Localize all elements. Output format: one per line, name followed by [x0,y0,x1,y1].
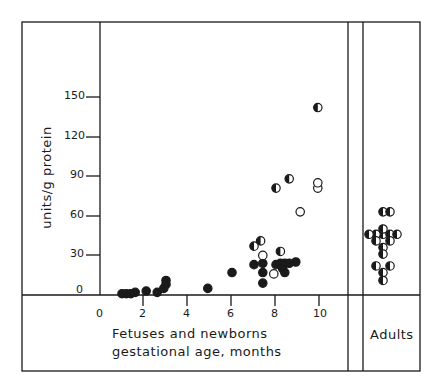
open-data-point [314,179,322,187]
open-data-point [296,208,304,216]
adults-label: Adults [370,327,414,342]
x-tick-6: 6 [227,307,234,320]
y-tick-150: 150 [64,89,85,102]
x-tick-8: 8 [271,307,278,320]
filled-data-point [204,284,212,292]
filled-data-point [131,288,139,296]
filled-data-point [259,268,267,276]
x-tick-10: 10 [313,307,327,320]
x-tick-4: 4 [183,307,190,320]
x-axis-label-line2: gestational age, months [112,344,282,359]
y-ticks [86,97,100,255]
filled-data-point [228,268,236,276]
x-axis-label-line1: Fetuses and newborns [112,326,268,341]
y-axis-label: units/g protein [39,108,54,248]
filled-data-point [259,259,267,267]
chart-frame [22,22,420,371]
filled-data-point [281,268,289,276]
x-tick-2: 2 [139,307,146,320]
data-points [118,103,401,298]
y-tick-30: 30 [70,247,84,260]
y-tick-60: 60 [70,208,84,221]
x-tick-0: 0 [96,307,103,320]
open-data-point [270,270,278,278]
filled-data-point [142,287,150,295]
filled-data-point [162,276,170,284]
x-ticks [143,295,319,306]
filled-data-point [250,260,258,268]
y-tick-90: 90 [70,168,84,181]
filled-data-point [292,258,300,266]
filled-data-point [259,279,267,287]
y-tick-120: 120 [64,129,85,142]
open-data-point [259,251,267,259]
y-tick-0: 0 [76,283,83,296]
